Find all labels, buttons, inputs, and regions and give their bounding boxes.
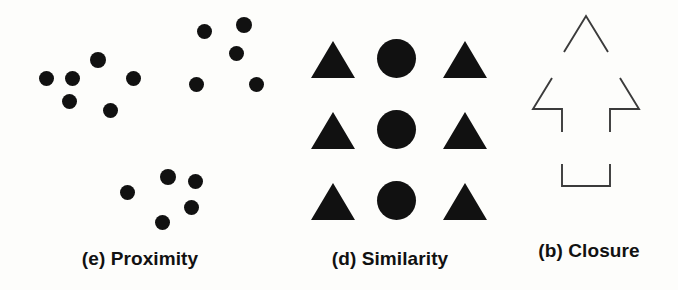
- proximity-dot: [160, 169, 176, 185]
- proximity-dot: [188, 174, 203, 189]
- closure-segment-left-barb-and-stem: [533, 78, 562, 132]
- similarity-circle: [377, 39, 416, 78]
- gestalt-principles-figure: (e) Proximity (d) Similarity (b) Closure: [0, 0, 678, 290]
- proximity-dot: [126, 71, 141, 86]
- similarity-triangle: [311, 41, 355, 78]
- similarity-shape-grid: [280, 0, 500, 240]
- proximity-dot: [39, 71, 54, 86]
- panel-similarity: (d) Similarity: [280, 0, 500, 290]
- similarity-triangle: [443, 41, 487, 78]
- similarity-triangle: [311, 183, 355, 220]
- panel-proximity: (e) Proximity: [0, 0, 280, 290]
- proximity-dot-field: [0, 0, 280, 240]
- similarity-triangle: [443, 112, 487, 149]
- proximity-dot: [103, 103, 118, 118]
- proximity-dot: [120, 185, 135, 200]
- closure-segment-apex-chevron: [564, 16, 608, 52]
- proximity-dot: [189, 77, 204, 92]
- proximity-dot: [155, 215, 170, 230]
- proximity-dot: [229, 46, 244, 61]
- proximity-dot: [249, 77, 264, 92]
- closure-arrow-icon: [500, 0, 678, 240]
- proximity-dot: [62, 94, 77, 109]
- similarity-circle: [377, 181, 416, 220]
- panel-closure: (b) Closure: [500, 0, 678, 290]
- caption-similarity: (d) Similarity: [280, 248, 500, 270]
- caption-proximity: (e) Proximity: [0, 248, 280, 270]
- caption-closure: (b) Closure: [500, 240, 678, 262]
- proximity-dot: [197, 24, 212, 39]
- similarity-triangle: [443, 183, 487, 220]
- proximity-dot: [90, 52, 106, 68]
- proximity-dot: [184, 200, 199, 215]
- similarity-circle: [377, 110, 416, 149]
- proximity-dot: [236, 17, 252, 33]
- closure-segment-right-barb-and-stem: [610, 78, 639, 132]
- closure-segment-bottom-bracket: [562, 164, 610, 186]
- closure-arrow-outline: [500, 0, 678, 240]
- proximity-dot: [65, 71, 80, 86]
- similarity-triangle: [311, 112, 355, 149]
